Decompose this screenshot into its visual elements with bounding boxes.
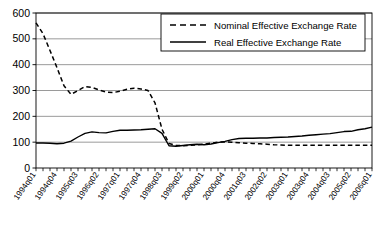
legend-label-real: Real Effective Exchange Rate — [214, 37, 341, 48]
y-axis: 0100200300400500600 — [12, 7, 36, 174]
y-axis-tick-label: 600 — [12, 7, 30, 19]
y-axis-tick-label: 100 — [12, 136, 30, 148]
x-axis: 1994q011994q041995q031996q021997q011997q… — [12, 168, 374, 202]
y-axis-tick-label: 200 — [12, 110, 30, 122]
y-axis-tick-label: 300 — [12, 84, 30, 96]
chart-container: 0100200300400500600 1994q011994q041995q0… — [0, 0, 383, 225]
y-axis-tick-label: 400 — [12, 58, 30, 70]
y-axis-tick-label: 500 — [12, 32, 30, 44]
legend-label-nominal: Nominal Effective Exchange Rate — [214, 20, 357, 31]
exchange-rate-line-chart: 0100200300400500600 1994q011994q041995q0… — [0, 0, 383, 225]
chart-legend: Nominal Effective Exchange RateReal Effe… — [161, 14, 365, 51]
x-axis-tick-label: 2006q01 — [348, 170, 374, 202]
